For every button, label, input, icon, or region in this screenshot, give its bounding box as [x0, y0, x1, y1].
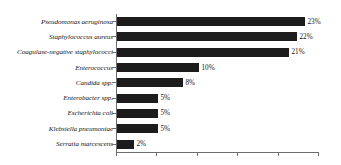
bar-value-label: 22%	[300, 33, 313, 41]
y-axis-tick	[112, 98, 116, 99]
bar-value-label: 5%	[161, 125, 171, 133]
y-axis-tick	[112, 144, 116, 145]
x-axis-line	[116, 152, 318, 153]
bar-value-label: 21%	[292, 48, 305, 56]
y-axis-tick	[112, 36, 116, 37]
chart-row: Klebsiella pneumoniae 5%	[0, 121, 341, 136]
bar[interactable]	[117, 94, 158, 103]
y-axis-tick	[112, 67, 116, 68]
chart-row: Staphylococcus aureus 22%	[0, 29, 341, 44]
chart-plot-area: Pseudomonas aeruginosa 23% Staphylococcu…	[0, 14, 341, 152]
bar-group: 10%	[117, 60, 215, 75]
x-axis-tick	[116, 152, 117, 156]
y-axis-tick	[112, 113, 116, 114]
bar-value-label: 8%	[186, 79, 196, 87]
chart-row: Enterococcus 10%	[0, 60, 341, 75]
chart-row: Serratia marcescens 2%	[0, 136, 341, 151]
x-axis-tick	[237, 152, 238, 156]
bar-group: 8%	[117, 75, 195, 90]
category-label: Enterococcus	[0, 64, 113, 72]
category-label: Coagulase-negative staphylococci	[0, 48, 113, 56]
chart-row: Escherichia coli 5%	[0, 106, 341, 121]
chart-row: Candida spp. 8%	[0, 75, 341, 90]
bar-group: 5%	[117, 90, 170, 105]
bar[interactable]	[117, 63, 199, 72]
bar-value-label: 5%	[161, 109, 171, 117]
bar-group: 23%	[117, 14, 321, 29]
x-axis-tick	[156, 152, 157, 156]
bar[interactable]	[117, 48, 289, 57]
bar-chart: Pseudomonas aeruginosa 23% Staphylococcu…	[0, 0, 341, 165]
category-label: Escherichia coli	[0, 109, 113, 117]
y-axis-tick	[112, 21, 116, 22]
chart-row: Coagulase-negative staphylococci 21%	[0, 45, 341, 60]
bar[interactable]	[117, 140, 134, 149]
category-label: Enterobacter spp.	[0, 94, 113, 102]
y-axis-tick	[112, 52, 116, 53]
bar-group: 21%	[117, 45, 305, 60]
bar[interactable]	[117, 109, 158, 118]
bar[interactable]	[117, 124, 158, 133]
y-axis-line	[116, 14, 117, 152]
y-axis-tick	[112, 82, 116, 83]
bar-value-label: 2%	[137, 140, 147, 148]
category-label: Serratia marcescens	[0, 140, 113, 148]
x-axis-tick	[278, 152, 279, 156]
chart-row: Enterobacter spp. 5%	[0, 90, 341, 105]
bar[interactable]	[117, 78, 183, 87]
bar-group: 2%	[117, 136, 146, 151]
bar-value-label: 23%	[308, 18, 321, 26]
category-label: Staphylococcus aureus	[0, 33, 113, 41]
bar-value-label: 5%	[161, 94, 171, 102]
bar-group: 5%	[117, 106, 170, 121]
bar[interactable]	[117, 32, 297, 41]
chart-row: Pseudomonas aeruginosa 23%	[0, 14, 341, 29]
bar-value-label: 10%	[202, 64, 215, 72]
x-axis-tick	[197, 152, 198, 156]
category-label: Klebsiella pneumoniae	[0, 125, 113, 133]
bar-group: 22%	[117, 29, 313, 44]
category-label: Pseudomonas aeruginosa	[0, 18, 113, 26]
bar[interactable]	[117, 17, 305, 26]
x-axis-tick	[318, 152, 319, 156]
bar-group: 5%	[117, 121, 170, 136]
category-label: Candida spp.	[0, 79, 113, 87]
y-axis-tick	[112, 128, 116, 129]
